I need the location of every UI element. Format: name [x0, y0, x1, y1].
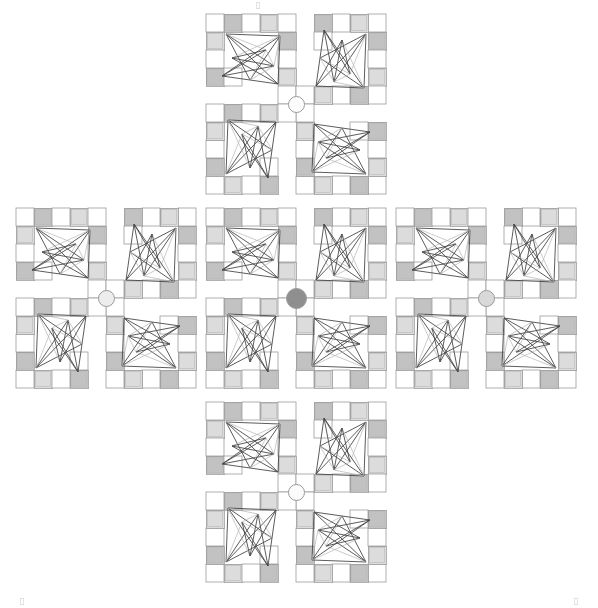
module-tile	[396, 352, 414, 370]
module-edge	[226, 508, 228, 562]
module-tile	[224, 564, 242, 582]
module-tile	[242, 104, 260, 122]
module-tile	[206, 528, 224, 546]
diagram-canvas	[0, 0, 598, 608]
hub-circle[interactable]	[98, 290, 115, 307]
module-tile	[414, 370, 432, 388]
module-tile	[224, 176, 242, 194]
mark-top	[256, 2, 260, 9]
module-tile	[242, 564, 260, 582]
module-tile	[260, 176, 278, 194]
module-tile	[260, 298, 278, 316]
module-tile	[242, 492, 260, 510]
module-tile	[396, 334, 414, 352]
module-tile	[224, 298, 242, 316]
cluster-center[interactable]	[201, 203, 391, 393]
module-tile	[242, 298, 260, 316]
cluster-top[interactable]	[201, 9, 391, 199]
hub-circle[interactable]	[288, 484, 305, 501]
module-tile	[260, 370, 278, 388]
module-tile	[16, 334, 34, 352]
module-tile	[206, 316, 224, 334]
module-tile	[70, 370, 88, 388]
module-tile	[206, 510, 224, 528]
module-tile	[206, 492, 224, 510]
cluster-bottom[interactable]	[201, 397, 391, 587]
module-tile	[242, 176, 260, 194]
module-tile	[396, 298, 414, 316]
module-edge	[416, 314, 418, 368]
hub-circle[interactable]	[288, 96, 305, 113]
module-tile	[206, 298, 224, 316]
hub-circle[interactable]	[478, 290, 495, 307]
module-tile	[16, 370, 34, 388]
cluster-right[interactable]	[391, 203, 581, 393]
module-tile	[16, 352, 34, 370]
module-tile	[224, 492, 242, 510]
module-tile	[432, 370, 450, 388]
module-edge	[36, 314, 38, 368]
module-tile	[70, 298, 88, 316]
module-tile	[206, 546, 224, 564]
module-tile	[34, 370, 52, 388]
module-tile	[450, 298, 468, 316]
module-tile	[16, 316, 34, 334]
module-edge	[226, 314, 228, 368]
cluster-left[interactable]	[11, 203, 201, 393]
module-tile	[52, 370, 70, 388]
module-tile	[206, 104, 224, 122]
module-tile	[260, 492, 278, 510]
module-tile	[52, 298, 70, 316]
module-tile	[396, 370, 414, 388]
module-tile	[224, 104, 242, 122]
module-tile	[34, 298, 52, 316]
hub-circle[interactable]	[286, 288, 307, 309]
module-tile	[206, 122, 224, 140]
module-tile	[206, 370, 224, 388]
module-tile	[260, 104, 278, 122]
module-tile	[260, 564, 278, 582]
module-tile	[450, 370, 468, 388]
module-tile	[206, 176, 224, 194]
module-tile	[206, 334, 224, 352]
module-tile	[206, 158, 224, 176]
module-tile	[242, 370, 260, 388]
module-tile	[396, 316, 414, 334]
module-tile	[432, 298, 450, 316]
module-tile	[206, 352, 224, 370]
module-edge	[226, 120, 228, 174]
module-tile	[16, 298, 34, 316]
module-tile	[206, 140, 224, 158]
mark-bottom-right	[574, 598, 578, 605]
module-tile	[414, 298, 432, 316]
mark-bottom-left	[20, 598, 24, 605]
module-tile	[206, 564, 224, 582]
module-tile	[224, 370, 242, 388]
